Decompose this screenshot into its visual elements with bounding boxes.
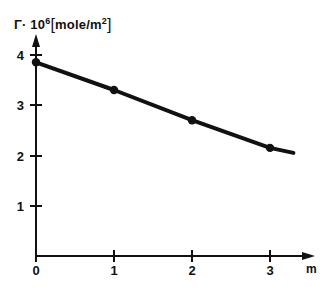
data-point-3 xyxy=(266,144,274,152)
x-tick-label-0: 0 xyxy=(28,264,44,277)
y-axis-title: Γ· 106[mole/m2] xyxy=(14,17,112,33)
data-point-1 xyxy=(110,86,118,94)
x-axis-arrowhead xyxy=(302,252,315,260)
x-tick-label-2: 2 xyxy=(184,264,200,277)
data-point-0 xyxy=(32,58,40,66)
y-tick-label-2: 2 xyxy=(10,150,24,163)
y-tick-label-3: 3 xyxy=(10,99,24,112)
x-axis-unit-label: m xyxy=(306,263,317,275)
y-tick-label-4: 4 xyxy=(10,49,24,62)
x-tick-label-1: 1 xyxy=(106,264,122,277)
chart-plot-area xyxy=(0,0,329,292)
y-tick-label-1: 1 xyxy=(10,200,24,213)
data-point-2 xyxy=(188,116,196,124)
y-axis-arrowhead xyxy=(32,34,40,47)
y-axis-symbol: Γ· 10 xyxy=(14,17,45,32)
data-series-line xyxy=(36,62,293,153)
x-tick-label-3: 3 xyxy=(262,264,278,277)
bracket-close: ] xyxy=(107,16,112,33)
chart-figure: Γ· 106[mole/m2] 4 3 2 1 0 1 2 3 m xyxy=(0,0,329,292)
y-axis-unit: mole/m xyxy=(55,17,102,32)
